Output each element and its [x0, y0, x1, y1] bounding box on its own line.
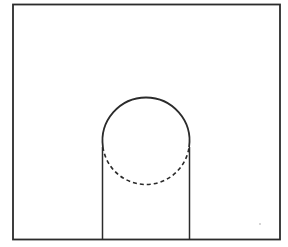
scan-speck [259, 223, 261, 225]
background [0, 0, 288, 247]
basketball-key-diagram [0, 0, 288, 247]
